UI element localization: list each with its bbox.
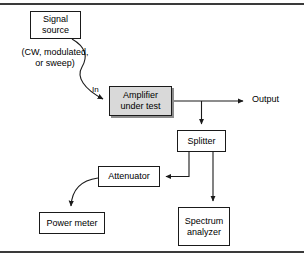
block-spectrum-analyzer[interactable]: Spectrum analyzer — [178, 207, 230, 246]
label-input-port: In — [92, 85, 99, 94]
block-attenuator[interactable]: Attenuator — [98, 166, 160, 187]
block-diagram-figure: Signal source Amplifier under test Split… — [0, 0, 304, 263]
block-amplifier-under-test[interactable]: Amplifier under test — [109, 86, 172, 116]
block-signal-source[interactable]: Signal source — [30, 11, 81, 39]
block-power-meter[interactable]: Power meter — [39, 212, 105, 234]
label-output-port: Output — [252, 95, 279, 104]
block-splitter[interactable]: Splitter — [177, 130, 226, 152]
wire-splitter-to-attenuator — [166, 152, 189, 177]
label-source-modes: (CW, modulated, or sweep) — [12, 47, 98, 69]
wire-attenuator-to-power-meter — [71, 178, 98, 206]
